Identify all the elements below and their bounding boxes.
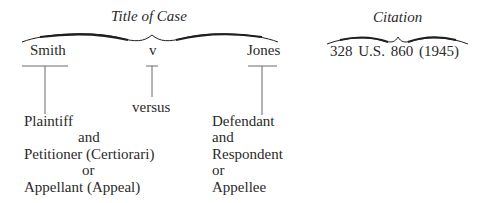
plaintiff-role-alternative: or [82, 162, 95, 178]
versus-connector [146, 66, 158, 97]
citation-heading: Citation [373, 9, 422, 25]
plaintiff-role: Plaintiff [24, 113, 73, 129]
defendant-connector [248, 66, 277, 115]
defendant-role-alternative: or [212, 162, 225, 178]
versus-label: versus [132, 99, 170, 115]
citation-text: 328 U.S. 860 (1945) [330, 43, 459, 59]
defendant-role: Defendant [212, 113, 274, 129]
case-title-brace [22, 34, 278, 42]
plaintiff-connector [22, 66, 68, 114]
diagram-lines [0, 0, 488, 203]
defendant-role-conjunction: and [212, 129, 234, 145]
appellant-role: Appellant (Appeal) [24, 179, 140, 195]
respondent-role: Respondent [212, 146, 283, 162]
appellee-role: Appellee [212, 179, 266, 195]
plaintiff-role-conjunction: and [78, 129, 100, 145]
title-of-case-heading: Title of Case [111, 8, 187, 24]
petitioner-role: Petitioner (Certiorari) [24, 146, 154, 162]
versus-abbrev: v [149, 42, 157, 58]
defendant-name: Jones [247, 42, 280, 58]
plaintiff-name: Smith [30, 42, 66, 58]
